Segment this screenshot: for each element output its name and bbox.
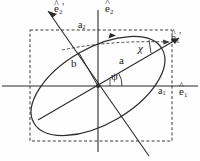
label-a2: a2 xyxy=(78,20,86,31)
label-e2-hatwrap: ^e xyxy=(105,3,110,14)
label-psi-angle: ψ xyxy=(111,71,118,82)
hat-accent-icon: ^ xyxy=(54,0,58,9)
label-a2-sub: 2 xyxy=(82,23,85,30)
diagram-canvas xyxy=(0,0,200,161)
hat-accent-icon: ^ xyxy=(171,29,175,38)
polarization-ellipse-figure: ^e2' ^e2 ^e1' ^e1 a2 a1 a b χ ψ xyxy=(0,0,200,161)
label-e1-hatwrap: ^e xyxy=(179,86,184,97)
origin-point xyxy=(96,84,100,88)
label-a1-sub: 1 xyxy=(162,89,165,96)
label-chi-angle: χ xyxy=(138,43,143,54)
label-e1-prime: ^e1' xyxy=(171,31,181,45)
label-e1-prime-mark: ' xyxy=(179,30,181,41)
label-e1: ^e1 xyxy=(179,86,187,98)
chi-chord-dashed xyxy=(62,42,168,50)
label-e1-sub: 1 xyxy=(184,91,187,98)
hat-accent-icon: ^ xyxy=(179,82,183,91)
chi-angle-tick xyxy=(149,40,151,53)
semi-minor-axis-b-segment xyxy=(79,53,98,86)
label-a1: a1 xyxy=(158,86,166,97)
psi-angle-arc xyxy=(119,74,122,87)
label-e2-prime-mark: ' xyxy=(62,1,64,12)
hat-accent-icon: ^ xyxy=(105,0,109,9)
label-b: b xyxy=(71,58,77,69)
label-e2: ^e2 xyxy=(105,3,113,15)
label-e1-prime-hatwrap: ^e xyxy=(171,32,176,43)
axis-e1-prime xyxy=(38,38,179,120)
label-a: a xyxy=(119,55,124,66)
label-e2-prime: ^e2' xyxy=(54,2,64,16)
label-e2-prime-hatwrap: ^e xyxy=(54,3,59,14)
ellipse-direction-arrowhead xyxy=(109,33,117,39)
label-e2-sub: 2 xyxy=(110,8,113,15)
